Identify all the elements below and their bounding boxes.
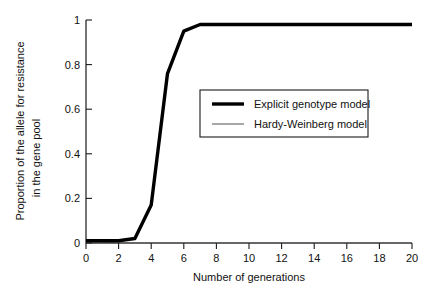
x-tick-label: 12 [275, 252, 287, 264]
x-tick-label: 6 [181, 252, 187, 264]
y-tick-label: 0.2 [65, 192, 80, 204]
x-tick-label: 20 [406, 252, 418, 264]
x-tick-label: 4 [148, 252, 154, 264]
legend-label-explicit-genotype-model: Explicit genotype model [254, 98, 370, 110]
y-tick-label: 1 [74, 14, 80, 26]
y-axis-title-line2: in the gene pool [30, 119, 42, 197]
y-tickmarks [86, 20, 92, 243]
x-axis-title: Number of generations [193, 271, 305, 283]
x-tick-label: 10 [243, 252, 255, 264]
y-tick-label: 0 [74, 237, 80, 249]
x-tick-label: 18 [373, 252, 385, 264]
y-axis-title-line1: Proportion of the allele for resistance [14, 41, 26, 220]
y-tick-label: 0.8 [65, 59, 80, 71]
line-chart: 0 0.2 0.4 0.6 0.8 1 0 2 4 6 8 [0, 0, 426, 290]
legend-label-hardy-weinberg-model: Hardy-Weinberg model [254, 118, 367, 130]
x-tick-label: 8 [213, 252, 219, 264]
x-tick-labels: 0 2 4 6 8 10 12 14 16 18 20 [83, 252, 418, 264]
x-tick-label: 16 [341, 252, 353, 264]
y-tick-label: 0.6 [65, 103, 80, 115]
y-tick-labels: 0 0.2 0.4 0.6 0.8 1 [65, 14, 80, 249]
chart-figure: 0 0.2 0.4 0.6 0.8 1 0 2 4 6 8 [0, 0, 426, 290]
x-tick-label: 14 [308, 252, 320, 264]
chart-legend: Explicit genotype model Hardy-Weinberg m… [200, 90, 370, 137]
y-tick-label: 0.4 [65, 148, 80, 160]
x-tickmarks [86, 243, 412, 249]
x-tick-label: 0 [83, 252, 89, 264]
x-tick-label: 2 [116, 252, 122, 264]
